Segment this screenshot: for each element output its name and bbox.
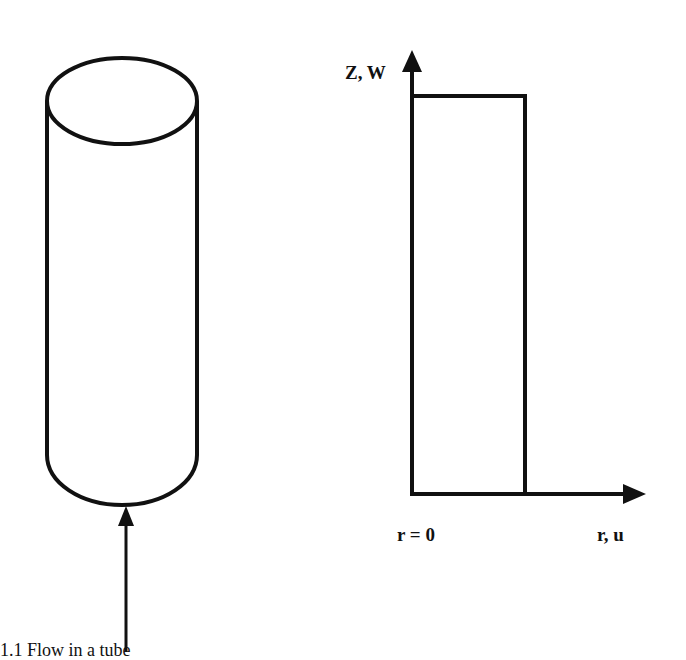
- cylinder-body: [47, 101, 197, 505]
- horizontal-axis-arrow-icon: [623, 484, 646, 504]
- vertical-axis-arrow-icon: [402, 50, 422, 72]
- figure-caption: 1.1 Flow in a tube: [0, 640, 131, 660]
- flow-arrow: [118, 506, 134, 652]
- cylinder-top-ellipse: [47, 58, 197, 144]
- origin-label: r = 0: [397, 524, 435, 546]
- velocity-profile: [412, 96, 525, 494]
- horizontal-axis-label: r, u: [597, 524, 624, 546]
- cylinder-shape: [47, 58, 197, 505]
- vertical-axis-label: Z, W: [345, 62, 386, 84]
